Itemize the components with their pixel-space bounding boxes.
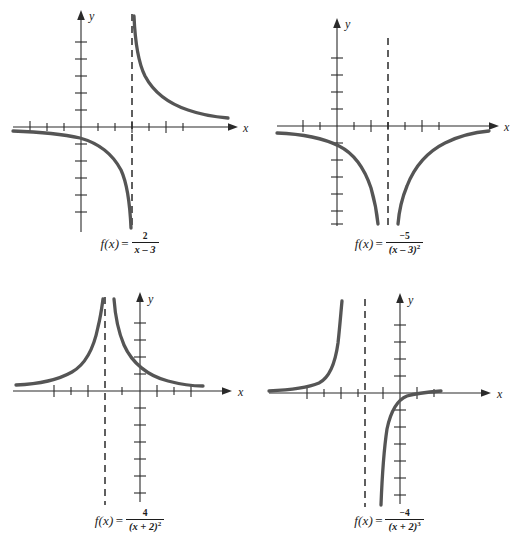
curve-right-branch <box>381 391 441 505</box>
formula-fraction: −5(x – 3)2 <box>386 231 424 257</box>
denominator-exponent: 2 <box>417 242 421 250</box>
y-axis <box>333 18 341 226</box>
denominator-exponent: 2 <box>158 519 162 527</box>
curve-left-branch <box>269 301 342 391</box>
x-axis-label: x <box>242 121 249 135</box>
curve-left-branch <box>16 299 103 385</box>
y-axis-label: y <box>147 292 154 306</box>
formula-equals: = <box>373 513 385 528</box>
formula-numerator: 4 <box>126 508 164 519</box>
panel-top-left: x y f(x)=2x – 3 <box>0 0 259 277</box>
formula-numerator: −4 <box>385 508 423 519</box>
y-axis <box>77 10 85 232</box>
curve-left-branch <box>277 133 378 224</box>
formula-lhs: f(x) <box>355 236 374 251</box>
formula-fraction: −4(x + 2)3 <box>385 508 423 534</box>
formula-denominator: (x – 3)2 <box>386 242 424 257</box>
panel-bottom-right: x y f(x)=−4(x + 2)3 <box>259 277 519 554</box>
curve-right-branch <box>114 299 203 386</box>
graph-bottom-left: x y <box>0 277 259 509</box>
formula-denominator: (x + 2)3 <box>385 519 423 534</box>
graph-top-right: x y <box>259 0 519 232</box>
formula-lhs: f(x) <box>95 513 114 528</box>
y-axis-label: y <box>344 17 351 31</box>
curve-right-branch <box>398 131 489 224</box>
formula-equals: = <box>374 236 386 251</box>
formula-equals: = <box>119 236 131 251</box>
formula-lhs: f(x) <box>100 236 119 251</box>
formula-fraction: 4(x + 2)2 <box>126 508 164 534</box>
curve-left-branch <box>13 131 131 228</box>
denominator-base: (x – 3) <box>389 244 417 255</box>
graph-top-left: x y <box>0 0 259 232</box>
graph-svg-top-left: x y <box>0 0 259 232</box>
denominator-base: x – 3 <box>135 244 156 255</box>
graph-svg-bottom-left: x y <box>0 277 259 509</box>
x-axis-label: x <box>237 385 244 399</box>
formula-caption-top-right: f(x)=−5(x – 3)2 <box>259 232 519 258</box>
y-axis-label: y <box>407 293 414 307</box>
formula-fraction: 2x – 3 <box>132 231 159 257</box>
formula-numerator: −5 <box>386 231 424 242</box>
panel-bottom-left: x y f(x)=4(x + 2)2 <box>0 277 259 554</box>
x-axis-label: x <box>496 387 503 401</box>
formula-caption-bottom-left: f(x)=4(x + 2)2 <box>0 509 259 535</box>
curve-right-branch <box>134 16 228 118</box>
formula-denominator: x – 3 <box>132 242 159 257</box>
denominator-exponent: 3 <box>417 519 421 527</box>
figure-grid: x y f(x)=2x – 3 <box>0 0 519 554</box>
graph-svg-bottom-right: x y <box>259 277 519 509</box>
formula-caption-top-left: f(x)=2x – 3 <box>0 232 259 258</box>
graph-svg-top-right: x y <box>259 0 519 232</box>
panel-top-right: x y f(x)=−5(x – 3)2 <box>259 0 519 277</box>
x-axis-label: x <box>503 120 510 134</box>
x-axis <box>269 389 491 397</box>
graph-bottom-right: x y <box>259 277 519 509</box>
formula-lhs: f(x) <box>354 513 373 528</box>
formula-caption-bottom-right: f(x)=−4(x + 2)3 <box>259 509 519 535</box>
denominator-base: (x + 2) <box>129 521 158 532</box>
y-axis-label: y <box>88 9 95 23</box>
formula-equals: = <box>114 513 126 528</box>
denominator-base: (x + 2) <box>388 521 417 532</box>
formula-denominator: (x + 2)2 <box>126 519 164 534</box>
formula-numerator: 2 <box>132 231 159 242</box>
